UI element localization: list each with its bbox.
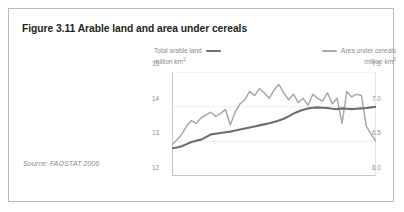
y-axis-left-tick: 14: [143, 95, 159, 102]
legend-label-total-arable-land: Total arable land: [154, 47, 202, 55]
legend-label-area-under-cereals: Area under cereals: [341, 47, 396, 55]
source-note: Source: FAOSTAT 2006: [23, 159, 99, 168]
series-line: [172, 107, 376, 149]
y-axis-right-tick: 7.0: [372, 95, 390, 102]
y-axis-left-tick: 13: [143, 129, 159, 136]
legend-swatch-total-arable-land: [206, 50, 221, 53]
figure-container: Figure 3.11 Arable land and area under c…: [8, 8, 394, 202]
series-line: [172, 84, 376, 144]
plot-svg: [172, 72, 376, 176]
y-axis-left-tick: 12: [143, 164, 159, 171]
legend-swatch-area-under-cereals: [322, 50, 337, 53]
plot-area: [172, 72, 376, 176]
y-axis-left-tick: 15: [143, 60, 159, 67]
y-axis-right-tick: 6.0: [372, 164, 390, 171]
figure-title: Figure 3.11 Arable land and area under c…: [22, 23, 247, 34]
legend-total-arable-land: Total arable land million km2: [154, 47, 221, 67]
legend-unit-total-arable-land: million km2: [154, 55, 221, 66]
y-axis-right-tick: 6.5: [372, 129, 390, 136]
y-axis-right-tick: 7.5: [372, 60, 390, 67]
